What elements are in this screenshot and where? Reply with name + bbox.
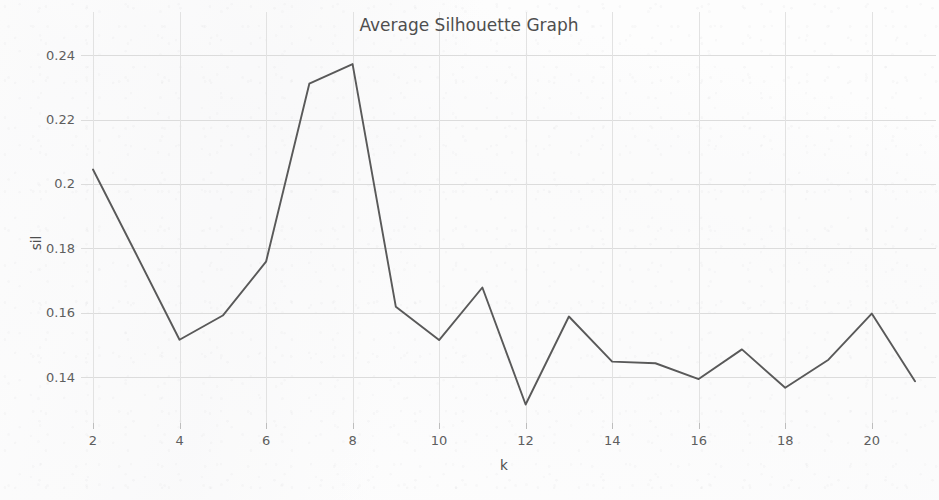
x-tick-label-16: 16 (690, 433, 707, 448)
sil-series-line (93, 64, 915, 404)
x-tick-label-8: 8 (348, 433, 356, 448)
y-tick-label-0.22: 0.22 (46, 112, 75, 127)
x-tick-label-20: 20 (863, 433, 880, 448)
y-tick-label-0.24: 0.24 (46, 48, 75, 63)
chart-title: Average Silhouette Graph (359, 15, 578, 35)
x-tick-label-6: 6 (262, 433, 270, 448)
x-tick-label-18: 18 (777, 433, 794, 448)
y-tick-label-0.16: 0.16 (46, 305, 75, 320)
y-tick-label-0.18: 0.18 (46, 241, 75, 256)
x-tick-label-2: 2 (89, 433, 97, 448)
x-axis-tick-labels: 2468101214161820 (89, 433, 880, 448)
vertical-gridlines (94, 12, 873, 428)
x-tick-label-10: 10 (431, 433, 448, 448)
y-tick-label-0.2: 0.2 (54, 176, 75, 191)
horizontal-gridlines (81, 56, 936, 378)
average-silhouette-line-chart: Average Silhouette Graph 0.140.160.180.2… (0, 0, 939, 500)
y-axis-label: sil (28, 236, 44, 251)
y-axis-tick-labels: 0.140.160.180.20.220.24 (46, 48, 75, 385)
y-tick-label-0.14: 0.14 (46, 370, 75, 385)
x-axis-label: k (500, 457, 508, 473)
x-axis-tick-marks (94, 423, 873, 429)
x-tick-label-12: 12 (517, 433, 534, 448)
chart-page: Average Silhouette Graph 0.140.160.180.2… (0, 0, 939, 500)
x-tick-label-4: 4 (175, 433, 183, 448)
x-tick-label-14: 14 (604, 433, 621, 448)
